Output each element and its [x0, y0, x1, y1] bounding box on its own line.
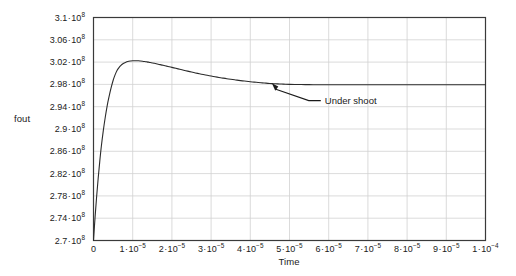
chart-figure: fout Time 2.7·1082.74·1082.78·1082.82·10…: [0, 0, 516, 276]
plot-canvas: Under shoot: [0, 0, 516, 276]
annotation-leader-line: [276, 89, 321, 100]
annotation-label: Under shoot: [325, 95, 377, 106]
annotation-under-shoot: Under shoot: [272, 83, 377, 106]
gridlines: [94, 18, 486, 241]
